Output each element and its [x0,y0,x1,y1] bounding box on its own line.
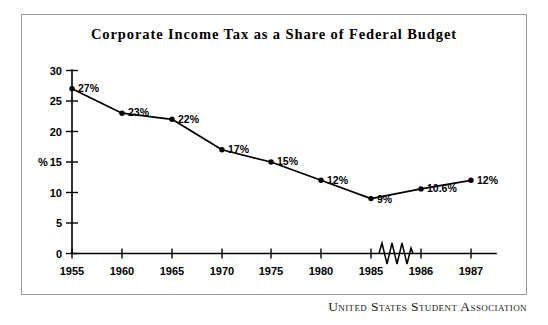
x-tick-label-1975: 1975 [259,265,283,277]
x-tick-label-1970: 1970 [210,265,234,277]
data-label-1965: 22% [178,113,200,125]
x-tick-label-1955: 1955 [60,265,84,277]
data-point-markers [69,86,473,201]
data-point-1955 [69,86,74,91]
data-point-1980 [318,178,323,183]
y-tick-label-0: 0 [56,248,62,260]
data-point-1960 [119,111,124,116]
x-tick-label-1980: 1980 [309,265,333,277]
data-point-1970 [219,147,224,152]
credit-line: United States Student Association [21,299,527,315]
x-tick-label-1987: 1987 [459,265,483,277]
figure-page: Corporate Income Tax as a Share of Feder… [0,0,548,325]
y-tick-label-25: 25 [50,95,62,107]
data-label-1985: 9% [377,193,393,205]
y-tick-label-10: 10 [50,187,62,199]
y-tick-label-20: 20 [50,126,62,138]
y-tick-label-5: 5 [56,217,62,229]
data-label-1970: 17% [228,143,250,155]
y-tick-label-30: 30 [50,65,62,77]
data-point-1965 [169,117,174,122]
data-label-1955: 27% [78,82,100,94]
data-label-1975: 15% [277,155,299,167]
y-tick-label-15: 15 [50,156,62,168]
x-tick-label-1960: 1960 [110,265,134,277]
data-point-1987 [468,178,473,183]
data-label-1960: 23% [128,106,150,118]
x-tick-label-1986: 1986 [409,265,433,277]
line-chart-plot: 0 5 10 15 20 25 30 % 1955 1960 1965 1970… [0,0,548,325]
data-series-line [72,89,471,199]
data-label-1987: 12% [477,174,499,186]
y-axis-title: % [38,156,48,168]
data-label-1980: 12% [327,174,349,186]
data-point-1986 [418,186,423,191]
data-label-1986: 10.6% [427,182,457,194]
data-point-1975 [268,159,273,164]
x-tick-label-1985: 1985 [359,265,383,277]
data-point-1985 [368,196,373,201]
x-tick-label-1965: 1965 [160,265,184,277]
